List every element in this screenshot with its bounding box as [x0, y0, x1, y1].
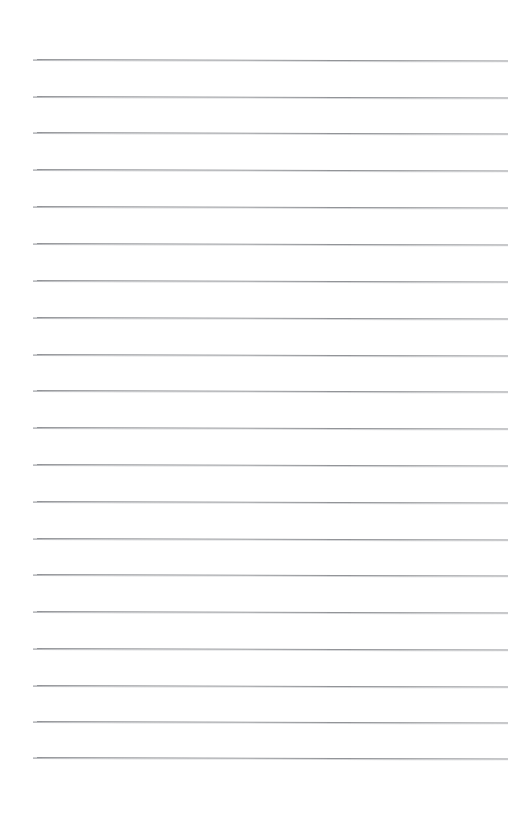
- lined-paper-page: Blank Lined Notepaper A scanned sheet of…: [0, 0, 508, 821]
- writing-area[interactable]: [0, 0, 508, 821]
